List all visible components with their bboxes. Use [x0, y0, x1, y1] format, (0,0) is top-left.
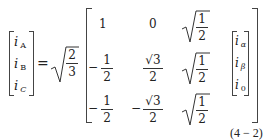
lhs-entry-ic: iC — [14, 78, 26, 94]
m31: 12 — [101, 94, 113, 125]
m33: 12 — [196, 95, 208, 126]
rhs-entry-ialpha: iα — [235, 34, 246, 49]
scalar-fraction: 23 — [66, 48, 78, 79]
m12: 0 — [149, 17, 157, 31]
lhs-entry-ib: iB — [14, 56, 26, 72]
matrix-right-bracket — [252, 8, 258, 123]
m11: 1 — [99, 17, 107, 31]
equation-number: (4 − 2) — [230, 126, 263, 140]
m32-sign: − — [131, 101, 141, 115]
lhs-entry-ia: iA — [14, 34, 26, 50]
m22: √32 — [143, 53, 163, 84]
m23: 12 — [196, 54, 208, 85]
right-bracket — [29, 31, 34, 96]
m21: 12 — [101, 53, 113, 84]
m31-sign: − — [88, 101, 98, 115]
rhs-entry-ibeta: iβ — [235, 56, 245, 71]
rhs-entry-i0: i0 — [235, 78, 246, 93]
m21-sign: − — [88, 60, 98, 74]
m13: 12 — [196, 12, 208, 43]
m32: √32 — [143, 94, 163, 125]
equals-sign: = — [37, 55, 49, 71]
